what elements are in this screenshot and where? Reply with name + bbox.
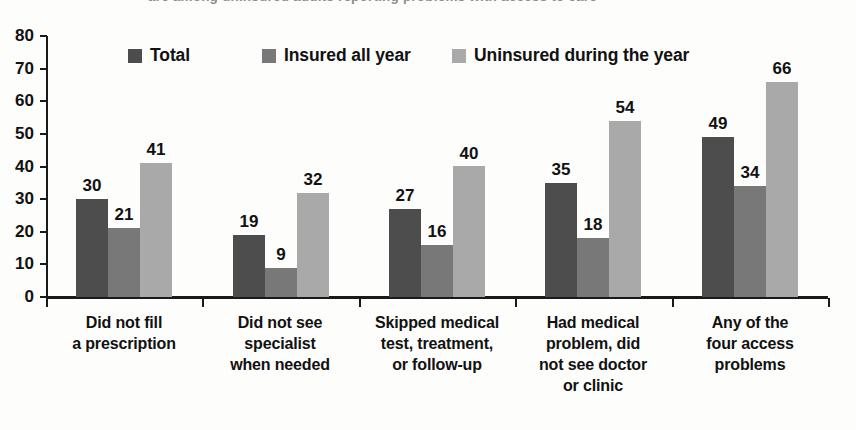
category-label: Did not seespecialistwhen needed [202,312,358,375]
y-axis-tick-label: 0 [0,288,34,305]
x-axis-tick [515,298,517,307]
y-axis-tick [40,166,47,168]
bar-value-label: 49 [696,115,740,132]
bar [577,238,609,297]
bar-value-label: 32 [291,171,335,188]
y-axis-tick-label: 10 [0,255,34,272]
y-axis-tick [40,100,47,102]
legend-item: Uninsured during the year [452,45,689,67]
x-axis-tick [202,298,204,307]
y-axis-tick-label: 60 [0,92,34,109]
x-axis-tick [672,298,674,307]
category-label: Had medicalproblem, didnot see doctoror … [515,312,671,396]
y-axis-tick-label: 20 [0,223,34,240]
x-axis-tick [46,298,48,307]
category-label-line: Did not fill [46,312,202,333]
legend-swatch [262,49,276,63]
bar-value-label: 19 [227,213,271,230]
category-label-line: Did not see [202,312,358,333]
category-label-line: when needed [202,354,358,375]
category-label: Did not filla prescription [46,312,202,354]
y-axis-tick [40,68,47,70]
bar [734,186,766,297]
category-label-line: or follow-up [359,354,515,375]
category-label-line: a prescription [46,333,202,354]
bar [702,137,734,297]
legend-swatch [128,49,142,63]
legend-item: Total [128,45,190,67]
chart-legend: TotalInsured all yearUninsured during th… [0,45,856,67]
category-label-line: problem, did [515,333,671,354]
y-axis-tick-label: 30 [0,190,34,207]
bar [453,166,485,297]
bar-chart: are among uninsured adults reporting pro… [0,0,856,430]
bar-value-label: 40 [447,145,491,162]
legend-label: Uninsured during the year [474,45,689,65]
y-axis-tick [40,35,47,37]
y-axis-tick-label: 80 [0,27,34,44]
category-label: Skipped medicaltest, treatment,or follow… [359,312,515,375]
bar [140,163,172,297]
bar [297,193,329,297]
bar [609,121,641,297]
category-label-line: Had medical [515,312,671,333]
category-label-line: four access [672,333,828,354]
bar-value-label: 27 [383,187,427,204]
y-axis-tick [40,198,47,200]
bar [108,228,140,297]
category-label-line: problems [672,354,828,375]
y-axis-tick [40,263,47,265]
legend-swatch [452,49,466,63]
bar-value-label: 41 [134,141,178,158]
bar-value-label: 35 [539,161,583,178]
y-axis-tick [40,133,47,135]
y-axis-tick-label: 50 [0,125,34,142]
legend-item: Insured all year [262,45,411,67]
bar [233,235,265,297]
bar [265,268,297,297]
x-axis-tick [828,298,830,307]
bar [545,183,577,297]
category-label-line: Skipped medical [359,312,515,333]
bar-value-label: 54 [603,99,647,116]
legend-label: Total [150,45,190,65]
category-label-line: test, treatment, [359,333,515,354]
x-axis-tick [359,298,361,307]
category-label-line: Any of the [672,312,828,333]
y-axis-tick-label: 40 [0,158,34,175]
category-label-line: not see doctor [515,354,671,375]
category-label: Any of thefour accessproblems [672,312,828,375]
bar-value-label: 30 [70,177,114,194]
bar [766,82,798,297]
legend-label: Insured all year [284,45,411,65]
y-axis-tick [40,231,47,233]
category-label-line: specialist [202,333,358,354]
bar [421,245,453,297]
category-label-line: or clinic [515,375,671,396]
